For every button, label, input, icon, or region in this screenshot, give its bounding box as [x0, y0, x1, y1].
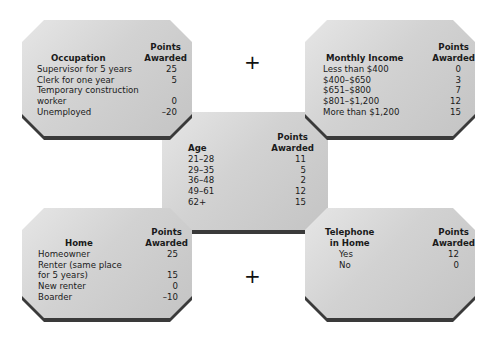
telephone-title: Telephone in Home	[323, 227, 374, 248]
monthly-income-box: Monthly Income Points Awarded Less than …	[305, 20, 479, 140]
age-title: Age	[188, 143, 207, 154]
table-row: 49–6112	[188, 186, 314, 197]
monthly-income-points-header: Points Awarded	[432, 42, 475, 63]
home-title: Home	[38, 238, 93, 249]
table-row: Clerk for one year5	[37, 75, 187, 86]
table-row: More than $1,20015	[323, 107, 475, 118]
telephone-points-header: Points Awarded	[432, 227, 475, 248]
table-row: Renter (same place for 5 years)15	[38, 260, 188, 281]
table-row: Temporary construction worker0	[37, 85, 187, 106]
table-row: Homeowner25	[38, 249, 188, 260]
table-row: $400–$6503	[323, 75, 475, 86]
table-row: No0	[323, 260, 475, 271]
table-row: Unemployed–20	[37, 107, 187, 118]
table-row: $651–$8007	[323, 85, 475, 96]
occupation-title: Occupation	[37, 53, 106, 64]
table-row: Less than $4000	[323, 64, 475, 75]
occupation-points-header: Points Awarded	[144, 42, 187, 63]
table-row: New renter0	[38, 281, 188, 292]
table-row: 29–355	[188, 165, 314, 176]
table-row: Supervisor for 5 years25	[37, 64, 187, 75]
table-row: Boarder–10	[38, 292, 188, 303]
home-box: Home Points Awarded Homeowner25 Renter (…	[22, 208, 196, 322]
monthly-income-title: Monthly Income	[323, 53, 403, 64]
plus-sign-bottom: +	[244, 266, 261, 286]
home-points-header: Points Awarded	[145, 227, 188, 248]
telephone-box: Telephone in Home Points Awarded Yes12 N…	[305, 208, 479, 322]
table-row: 36–482	[188, 175, 314, 186]
table-row: $801–$1,20012	[323, 96, 475, 107]
table-row: 21–2811	[188, 154, 314, 165]
table-row: Yes12	[323, 249, 475, 260]
plus-sign-top: +	[244, 52, 261, 72]
table-row: 62+15	[188, 197, 314, 208]
occupation-box: Occupation Points Awarded Supervisor for…	[22, 20, 196, 140]
